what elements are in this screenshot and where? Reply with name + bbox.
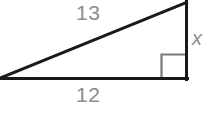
geometry-figure: 13 12 x <box>0 0 212 118</box>
right-angle-square-icon <box>162 55 186 79</box>
unknown-side-label: x <box>192 28 202 48</box>
hypotenuse-length-label: 13 <box>76 2 100 23</box>
base-length-label: 12 <box>76 84 100 105</box>
triangle-diagram <box>0 0 212 118</box>
